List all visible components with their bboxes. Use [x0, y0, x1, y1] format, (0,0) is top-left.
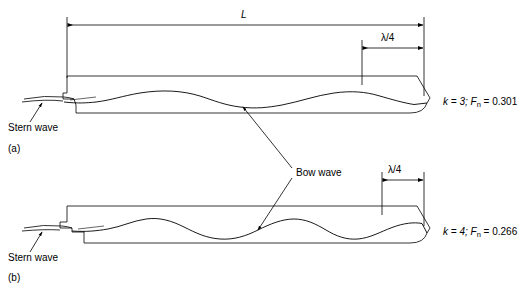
- dimension-label-length: L: [241, 10, 247, 20]
- dimension-label-quarter-wavelength-b: λ/4: [388, 165, 401, 175]
- condition-label-b-text: k = 4; F: [443, 226, 477, 237]
- bow-wave-label: Bow wave: [296, 168, 342, 178]
- hull-stem-b: [417, 206, 430, 228]
- panel-label-a: (a): [8, 144, 20, 154]
- hull-stem-a: [417, 76, 430, 98]
- dimension-label-quarter-wavelength-a: λ/4: [381, 33, 394, 43]
- leader-stern-wave-a: [30, 103, 42, 122]
- leader-bow-wave-a: [243, 107, 292, 168]
- wave-profile-figure: L λ/4 k = 3; Fn = 0.301 Stern wave (a) B…: [0, 0, 521, 290]
- wave-profile-a: [64, 91, 427, 108]
- panel-label-b: (b): [8, 273, 20, 283]
- leader-bow-wave-b: [258, 178, 292, 230]
- hull-keel-line-a: [76, 98, 430, 113]
- condition-label-a-text: k = 3; F: [443, 96, 477, 107]
- leader-stern-wave-b: [30, 232, 42, 252]
- stern-wave-label-a: Stern wave: [8, 123, 58, 133]
- stern-wave-surface-b: [22, 230, 60, 231]
- condition-label-b-value: = 0.266: [481, 226, 517, 237]
- diagram-canvas: [0, 0, 521, 290]
- waterline-hint-a: [70, 97, 96, 100]
- stern-wave-surface-a: [22, 100, 63, 102]
- condition-label-b: k = 4; Fn = 0.266: [443, 227, 517, 238]
- wave-profile-b: [72, 218, 427, 239]
- condition-label-a: k = 3; Fn = 0.301: [443, 97, 517, 108]
- waterline-hint-b: [78, 226, 104, 229]
- condition-label-a-value: = 0.301: [481, 96, 517, 107]
- hull-stern-profile-b: [60, 222, 84, 243]
- stern-wave-label-b: Stern wave: [8, 253, 58, 263]
